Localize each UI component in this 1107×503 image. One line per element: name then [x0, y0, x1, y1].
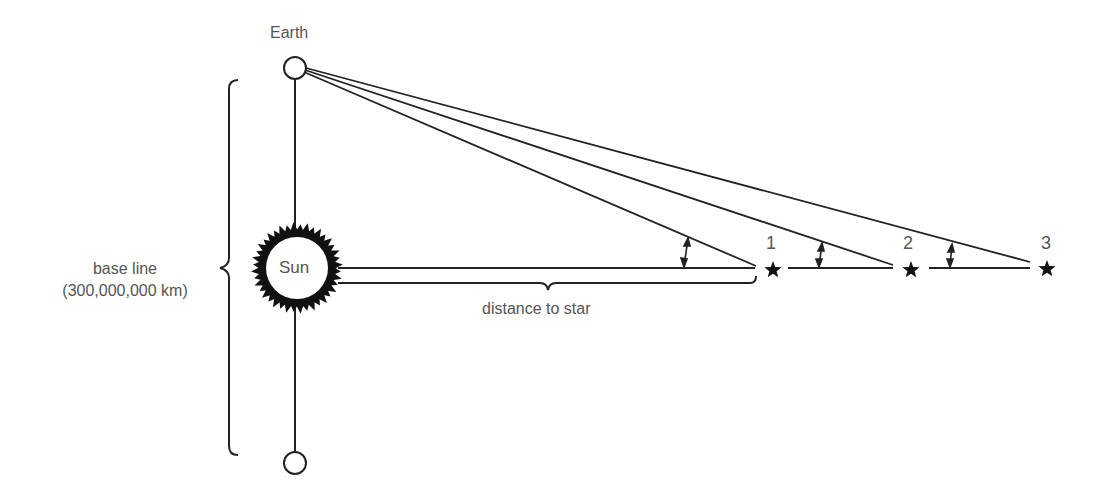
baseline-brace [220, 80, 238, 455]
earth-top-icon [284, 57, 306, 79]
star-icon [902, 261, 919, 277]
parallax-angle-arrow-1 [681, 238, 690, 267]
star-2-label: 2 [903, 234, 913, 252]
star-3-label: 3 [1041, 234, 1051, 252]
earth-label: Earth [270, 25, 308, 41]
parallax-angle-arrow-3 [947, 244, 954, 267]
star-1-label: 1 [766, 234, 776, 252]
star-icon [764, 261, 781, 277]
sight-line-star-3 [306, 68, 1030, 262]
sun-label: Sun [279, 259, 309, 276]
parallax-diagram [0, 0, 1107, 503]
baseline-label-line2: (300,000,000 km) [40, 280, 210, 302]
earth-bottom-icon [284, 452, 306, 474]
star-icon [1038, 260, 1055, 276]
distance-brace [338, 276, 756, 290]
baseline-label: base line (300,000,000 km) [40, 258, 210, 302]
distance-label: distance to star [482, 301, 591, 317]
baseline-label-line1: base line [40, 258, 210, 280]
parallax-angle-arrow-2 [816, 243, 824, 267]
sight-line-star-2 [305, 70, 893, 265]
